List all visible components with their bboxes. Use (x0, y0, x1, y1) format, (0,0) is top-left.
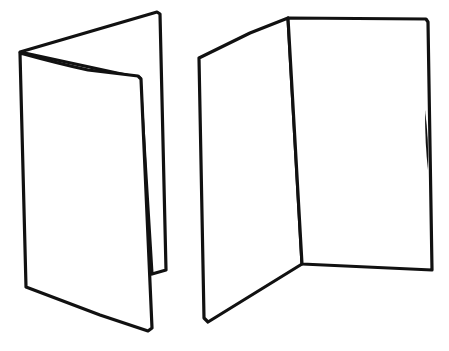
card-front-panel (20, 53, 152, 331)
closed-folded-card (20, 12, 166, 331)
card-left-panel (199, 18, 302, 322)
card-right-panel (288, 18, 432, 270)
sketch-canvas (0, 0, 449, 351)
open-folded-card (199, 18, 432, 322)
